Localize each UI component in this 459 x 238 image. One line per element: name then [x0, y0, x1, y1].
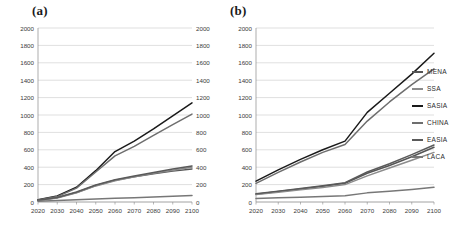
legend-label: SASIA [427, 102, 447, 109]
line-chart-b: 0200400600800100012001400160018002000202… [230, 22, 442, 218]
x-axis-tick-label: 2100 [427, 207, 441, 214]
y-axis-tick-label: 200 [242, 181, 253, 188]
y-axis-tick-label: 1800 [20, 42, 34, 49]
legend-item-laca[interactable]: LACA [412, 148, 459, 165]
legend-item-sasia[interactable]: SASIA [412, 97, 459, 114]
y-axis-tick-label: 800 [242, 129, 253, 136]
x-axis-tick-label: 2100 [185, 207, 199, 214]
x-axis-tick-label: 2050 [89, 207, 103, 214]
y-axis-tick-label-right: 1800 [196, 42, 210, 49]
y-axis-tick-label: 1400 [20, 77, 34, 84]
chart-panel-a: (a) 020040060080010001200140016001800200… [0, 0, 222, 238]
x-axis-tick-label: 2080 [383, 207, 397, 214]
plot-area-a: 0200400600800100012001400160018002000202… [12, 22, 218, 218]
legend-label: LACA [427, 153, 445, 160]
y-axis-tick-label: 0 [31, 199, 35, 206]
x-axis-tick-label: 2090 [405, 207, 419, 214]
y-axis-tick-label: 1600 [238, 59, 252, 66]
y-axis-tick-label-right: 200 [196, 181, 207, 188]
y-axis-tick-label: 200 [24, 181, 35, 188]
y-axis-tick-label: 1200 [238, 94, 252, 101]
y-axis-tick-label-right: 1200 [196, 94, 210, 101]
y-axis-tick-label: 800 [24, 129, 35, 136]
x-axis-tick-label: 2060 [108, 207, 122, 214]
x-axis-tick-label: 2080 [147, 207, 161, 214]
x-axis-tick-label: 2070 [127, 207, 141, 214]
legend-label: SSA [427, 85, 441, 92]
legend-label: EASIA [427, 136, 447, 143]
y-axis-tick-label: 2000 [20, 25, 34, 32]
y-axis-tick-label: 1000 [20, 112, 34, 119]
y-axis-tick-label: 400 [24, 164, 35, 171]
x-axis-tick-label: 2030 [271, 207, 285, 214]
legend-item-ssa[interactable]: SSA [412, 80, 459, 97]
line-chart-a: 0200400600800100012001400160018002000202… [12, 22, 218, 218]
x-axis-tick-label: 2050 [316, 207, 330, 214]
legend-item-easia[interactable]: EASIA [412, 131, 459, 148]
x-axis-tick-label: 2020 [249, 207, 263, 214]
y-axis-tick-label-right: 400 [196, 164, 207, 171]
y-axis-tick-label-right: 600 [196, 146, 207, 153]
y-axis-tick-label-right: 800 [196, 129, 207, 136]
x-axis-tick-label: 2040 [294, 207, 308, 214]
series-line-easia [256, 145, 434, 194]
x-axis-tick-label: 2040 [70, 207, 84, 214]
x-axis-tick-label: 2020 [31, 207, 45, 214]
series-line-china [38, 114, 192, 200]
x-axis-tick-label: 2070 [360, 207, 374, 214]
y-axis-tick-label-right: 1400 [196, 77, 210, 84]
y-axis-tick-label: 1400 [238, 77, 252, 84]
panel-label-b: (b) [230, 3, 247, 19]
y-axis-tick-label-right: 1600 [196, 59, 210, 66]
legend-swatch-icon [412, 88, 423, 90]
figure-root: (a) 020040060080010001200140016001800200… [0, 0, 459, 238]
y-axis-tick-label: 1200 [20, 94, 34, 101]
y-axis-tick-label: 400 [242, 164, 253, 171]
y-axis-tick-label-right: 1000 [196, 112, 210, 119]
y-axis-tick-label: 600 [24, 146, 35, 153]
panel-label-a: (a) [32, 3, 48, 19]
y-axis-tick-label: 1600 [20, 59, 34, 66]
y-axis-tick-label: 2000 [238, 25, 252, 32]
y-axis-tick-label-right: 2000 [196, 25, 210, 32]
series-line-china [256, 69, 434, 183]
legend-item-mena[interactable]: MENA [412, 63, 459, 80]
x-axis-tick-label: 2060 [338, 207, 352, 214]
y-axis-tick-label: 600 [242, 146, 253, 153]
x-axis-tick-label: 2030 [50, 207, 64, 214]
chart-legend: MENASSASASIACHINAEASIALACA [412, 63, 459, 165]
x-axis-tick-label: 2090 [166, 207, 180, 214]
legend-label: MENA [427, 68, 447, 75]
y-axis-tick-label: 1800 [238, 42, 252, 49]
series-line-laca [256, 187, 434, 198]
legend-swatch-icon [412, 156, 423, 158]
legend-item-china[interactable]: CHINA [412, 114, 459, 131]
y-axis-tick-label-right: 0 [196, 199, 200, 206]
legend-swatch-icon [412, 71, 423, 73]
legend-swatch-icon [412, 139, 423, 141]
legend-swatch-icon [412, 105, 423, 107]
legend-swatch-icon [412, 122, 423, 124]
series-line-sasia [38, 103, 192, 200]
plot-area-b: 0200400600800100012001400160018002000202… [230, 22, 442, 218]
y-axis-tick-label: 1000 [238, 112, 252, 119]
y-axis-tick-label: 0 [249, 199, 253, 206]
legend-label: CHINA [427, 119, 448, 126]
